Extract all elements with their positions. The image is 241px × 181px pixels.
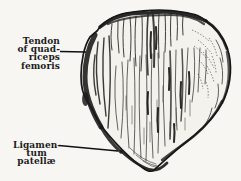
leader-line-ligament (59, 146, 118, 152)
leader-line-tendon (60, 52, 86, 53)
label-ligamentum-patellae: Ligamen- tum patellæ (13, 141, 60, 166)
anatomy-figure-patella: Tendon of quad- riceps femoris Ligamen- … (0, 0, 241, 181)
label-line: femoris (12, 62, 60, 70)
label-tendon-of-quadriceps-femoris: Tendon of quad- riceps femoris (12, 37, 60, 70)
label-line: patellæ (13, 157, 60, 165)
